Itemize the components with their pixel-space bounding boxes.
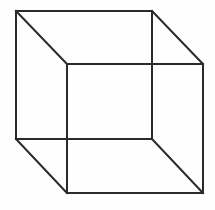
figure-background: [0, 0, 215, 210]
necker-cube-figure: [0, 0, 215, 210]
cube-canvas: [0, 0, 215, 210]
